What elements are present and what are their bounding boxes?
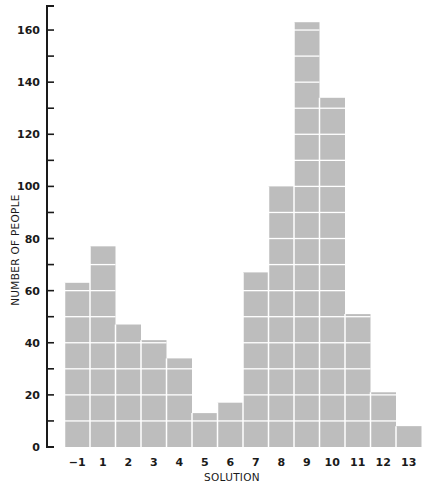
- bars-group: [65, 22, 422, 447]
- bar: [218, 403, 244, 447]
- x-tick-label: 9: [303, 456, 311, 469]
- x-tick-label: 13: [401, 456, 416, 469]
- bar: [167, 358, 193, 447]
- bar: [141, 340, 167, 447]
- bar: [294, 22, 320, 447]
- bar: [269, 186, 295, 447]
- x-tick-label: 1: [99, 456, 107, 469]
- x-tick-label: 7: [252, 456, 260, 469]
- y-tick-label: 40: [25, 337, 41, 350]
- y-tick-label: 100: [17, 180, 40, 193]
- y-axis-title: NUMBER OF PEOPLE: [9, 194, 21, 306]
- y-tick-label: 140: [17, 76, 40, 89]
- x-tick-label: 12: [376, 456, 391, 469]
- bar: [192, 413, 218, 447]
- x-tick-label: 3: [150, 456, 158, 469]
- y-tick-label: 120: [17, 128, 40, 141]
- y-axis: 020406080100120140160: [17, 6, 54, 454]
- x-tick-label: 10: [325, 456, 341, 469]
- y-tick-label: 80: [25, 233, 41, 246]
- y-tick-label: 160: [17, 24, 40, 37]
- histogram-chart: 020406080100120140160 −11234567891011121…: [0, 0, 430, 486]
- x-tick-label: 4: [175, 456, 183, 469]
- x-axis-labels: −112345678910111213: [69, 456, 417, 469]
- bar: [243, 272, 269, 447]
- x-tick-label: 6: [226, 456, 234, 469]
- bar: [345, 314, 371, 447]
- x-tick-label: 11: [350, 456, 365, 469]
- x-tick-label: 8: [277, 456, 285, 469]
- x-tick-label: 5: [201, 456, 209, 469]
- bar: [396, 426, 422, 447]
- y-tick-label: 20: [25, 389, 41, 402]
- x-tick-label: 2: [124, 456, 132, 469]
- bar: [320, 98, 346, 447]
- y-tick-label: 60: [25, 285, 41, 298]
- x-tick-label: −1: [69, 456, 86, 469]
- bar: [116, 325, 142, 447]
- y-tick-label: 0: [32, 441, 40, 454]
- bar: [90, 246, 116, 447]
- bar: [65, 283, 91, 447]
- bar: [371, 392, 397, 447]
- x-axis-title: SOLUTION: [204, 471, 260, 483]
